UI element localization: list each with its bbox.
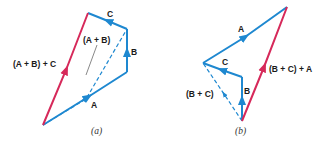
- label-c: C: [222, 57, 228, 67]
- label-b: B: [131, 47, 137, 57]
- diagram-b: A C B (B + C) (B + C) + A (b): [186, 7, 312, 137]
- vector-addition-figure: C B A (A + B) (A + B) + C (a) A C B (B +…: [0, 0, 333, 142]
- leader-line-a-plus-b: [86, 45, 97, 75]
- vector-a: [203, 7, 287, 63]
- diagram-a: C B A (A + B) (A + B) + C (a): [13, 9, 137, 137]
- caption-a: (a): [91, 126, 102, 137]
- label-resultant-b: (B + C) + A: [269, 64, 312, 74]
- label-resultant-a: (A + B) + C: [13, 59, 56, 69]
- label-a-plus-b: (A + B): [83, 35, 110, 45]
- caption-b: (b): [235, 126, 246, 137]
- label-c: C: [107, 9, 113, 19]
- label-b-plus-c: (B + C): [186, 89, 214, 99]
- label-b: B: [244, 86, 250, 96]
- label-a: A: [238, 24, 244, 34]
- vector-resultant-a: [43, 13, 88, 125]
- label-a: A: [91, 100, 97, 110]
- vector-a: [43, 72, 127, 125]
